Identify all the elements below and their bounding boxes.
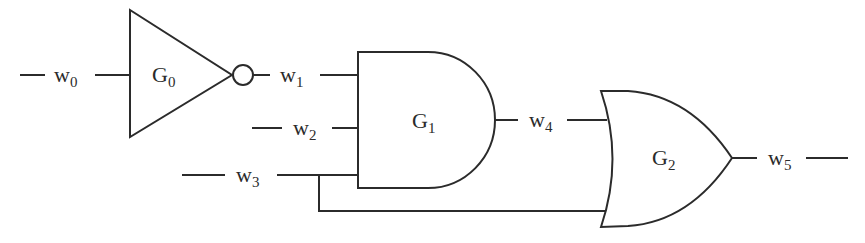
wire-label-w2: w2 xyxy=(293,115,316,143)
and-gate-g1: G1 xyxy=(358,52,495,188)
inverter-bubble xyxy=(233,65,253,85)
or-gate-g2: G2 xyxy=(601,91,732,227)
wire-label-w1: w1 xyxy=(280,62,303,90)
wire-label-w4: w4 xyxy=(529,107,553,135)
not-gate-triangle xyxy=(130,10,232,137)
wire-label-w5: w5 xyxy=(768,145,791,173)
wire-label-w0: w0 xyxy=(54,62,77,90)
not-gate-g0: G0 xyxy=(130,10,253,137)
logic-circuit-diagram: w0 G0 w1 w2 w3 G1 w4 G2 w5 xyxy=(0,0,865,243)
wire-label-w3: w3 xyxy=(236,162,259,190)
